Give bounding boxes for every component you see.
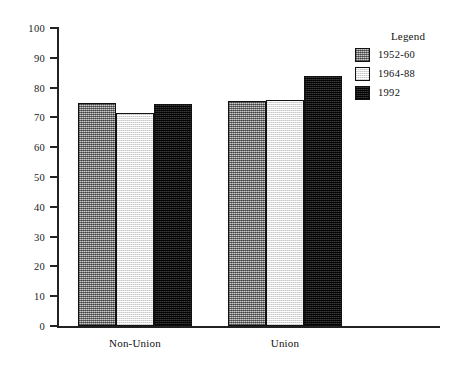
- y-axis-tick-label: 70: [11, 112, 45, 123]
- category-label-non-union: Non-Union: [109, 337, 161, 349]
- bar-non-union-1964-88: [116, 113, 154, 326]
- legend-entry-1964-88: 1964-88: [355, 65, 447, 82]
- bar-union-1964-88: [266, 100, 304, 326]
- x-axis-line: [57, 326, 440, 328]
- plot-area: 0102030405060708090100 Non-UnionUnion Le…: [0, 0, 451, 367]
- legend-swatch-icon-1964-88: [355, 67, 370, 81]
- bar-union-1992: [304, 76, 342, 326]
- y-axis-tick-label: 100: [11, 23, 45, 34]
- legend-label-1952-60: 1952-60: [378, 49, 415, 60]
- legend-entries: 1952-601964-881992: [355, 46, 447, 101]
- y-axis-tick-mark: [50, 146, 59, 148]
- y-axis-tick-mark: [50, 236, 59, 238]
- y-axis-tick-label: 80: [11, 82, 45, 93]
- y-axis-tick-label: 50: [11, 172, 45, 183]
- y-axis-tick-mark: [50, 116, 59, 118]
- legend-swatch-icon-1992: [355, 86, 370, 100]
- y-axis-tick-label: 90: [11, 52, 45, 63]
- y-axis-tick-label: 10: [11, 291, 45, 302]
- y-axis-tick-mark: [50, 87, 59, 89]
- legend-entry-1992: 1992: [355, 84, 447, 101]
- y-axis-tick-mark: [50, 265, 59, 267]
- y-axis-tick-mark: [50, 27, 59, 29]
- legend-label-1992: 1992: [378, 87, 400, 98]
- y-axis-tick-label: 40: [11, 201, 45, 212]
- y-axis-tick-mark: [50, 176, 59, 178]
- y-axis-tick-label: 60: [11, 142, 45, 153]
- legend: Legend 1952-601964-881992: [355, 30, 447, 103]
- legend-swatch-icon-1952-60: [355, 48, 370, 62]
- y-axis-tick-label: 20: [11, 261, 45, 272]
- y-axis-tick-mark: [50, 206, 59, 208]
- y-axis-tick-label: 30: [11, 231, 45, 242]
- y-axis-tick-mark: [50, 325, 59, 327]
- bar-non-union-1992: [154, 104, 192, 326]
- legend-entry-1952-60: 1952-60: [355, 46, 447, 63]
- legend-title: Legend: [369, 30, 447, 42]
- y-axis-tick-mark: [50, 295, 59, 297]
- bar-chart: 0102030405060708090100 Non-UnionUnion Le…: [0, 0, 451, 367]
- bar-non-union-1952-60: [78, 103, 116, 327]
- bar-union-1952-60: [228, 101, 266, 326]
- category-label-union: Union: [271, 337, 300, 349]
- legend-label-1964-88: 1964-88: [378, 68, 415, 79]
- y-axis-tick-label: 0: [11, 321, 45, 332]
- y-axis-tick-mark: [50, 57, 59, 59]
